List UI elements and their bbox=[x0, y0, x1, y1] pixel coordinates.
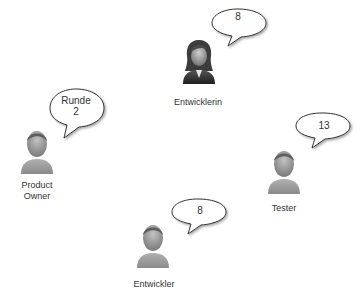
participant-tester: 13 Tester bbox=[250, 100, 362, 220]
bubble-text: 8 bbox=[222, 11, 254, 22]
user-icon bbox=[135, 222, 171, 270]
participant-entwickler: 8 Entwickler bbox=[110, 190, 240, 299]
participant-product-owner: Runde 2 Product Owner bbox=[0, 84, 120, 204]
participant-label: Tester bbox=[254, 203, 314, 214]
participant-entwicklerin: 8 Entwicklerin bbox=[168, 0, 288, 110]
participant-label: Entwicklerin bbox=[168, 97, 228, 108]
participant-label: Product Owner bbox=[7, 180, 67, 202]
speech-bubble bbox=[168, 196, 230, 238]
speech-bubble bbox=[292, 110, 354, 152]
user-icon bbox=[266, 148, 302, 196]
participant-label: Entwickler bbox=[124, 279, 184, 290]
bubble-text: Runde 2 bbox=[56, 95, 96, 117]
female-user-icon bbox=[181, 38, 217, 86]
user-icon bbox=[19, 128, 55, 176]
bubble-text: 13 bbox=[306, 120, 342, 131]
bubble-text: 8 bbox=[182, 205, 218, 216]
